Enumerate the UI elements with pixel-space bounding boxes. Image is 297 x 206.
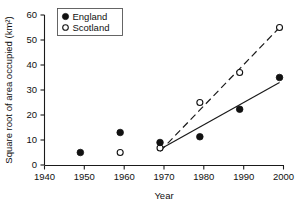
x-tick-label: 1980 [193,171,214,182]
trendlines-group [160,28,279,152]
scotland-trendline [160,28,279,152]
y-tick-label: 60 [26,9,37,20]
legend-label-scotland: Scotland [73,22,110,33]
y-tick-label: 20 [26,109,37,120]
y-tick-label: 0 [32,159,37,170]
y-tick-label: 50 [26,34,37,45]
x-tick-marks [45,166,284,170]
chart-figure: 0 10 20 30 40 50 60 1940 1950 1960 1970 … [0,0,297,206]
x-tick-label: 1990 [233,171,254,182]
legend-marker-england-icon [62,13,68,19]
england-trendline [160,83,279,150]
england-data-points [77,74,283,156]
x-tick-label: 2000 [273,171,294,182]
legend-label-england: England [73,11,108,22]
y-tick-label: 30 [26,84,37,95]
data-point [276,74,283,81]
x-tick-labels: 1940 1950 1960 1970 1980 1990 2000 [34,171,294,182]
y-axis-title: Square root of area occupied (km²) [3,16,14,163]
x-tick-label: 1940 [34,171,55,182]
data-point [117,150,123,156]
x-tick-label: 1950 [74,171,95,182]
scatter-plot: 0 10 20 30 40 50 60 1940 1950 1960 1970 … [0,0,297,206]
data-point [77,149,84,156]
y-tick-marks [41,15,45,165]
data-point [157,139,164,146]
data-point [236,106,243,113]
data-point [237,70,243,76]
x-tick-label: 1960 [114,171,135,182]
data-point [197,133,204,140]
legend: England Scotland [58,9,123,36]
y-tick-labels: 0 10 20 30 40 50 60 [26,9,37,170]
data-point [277,25,283,31]
x-axis-title: Year [154,190,173,201]
data-point [117,129,124,136]
y-tick-label: 10 [26,134,37,145]
x-tick-label: 1970 [153,171,174,182]
y-tick-label: 40 [26,59,37,70]
legend-marker-scotland-icon [63,25,69,31]
data-point [197,100,203,106]
